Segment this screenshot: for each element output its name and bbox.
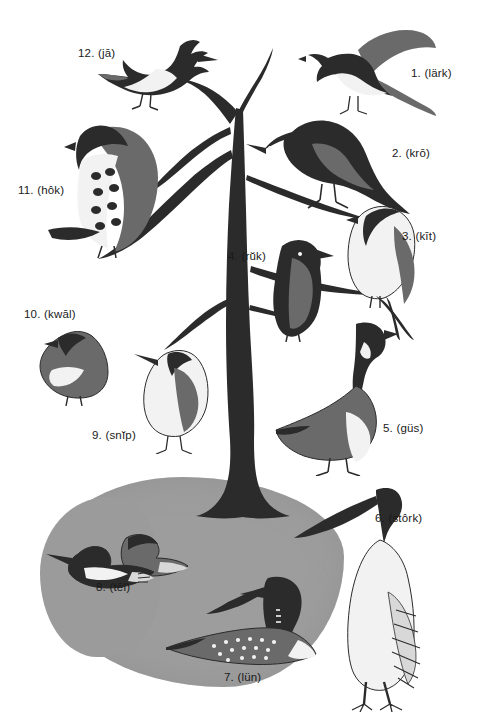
label-bird-5-goose: 5. (güs) [383,423,424,435]
label-bird-1-lark: 1. (lärk) [411,68,452,80]
bird-loon [148,570,338,670]
label-bird-7-loon: 7. (lün) [224,672,261,684]
bird-snipe [128,344,228,454]
label-bird-9-snipe: 9. (snĭp) [92,430,136,442]
bird-quail [28,326,118,406]
label-bird-10-quail: 10. (kwāl) [24,309,76,321]
label-bird-12-jay: 12. (jā) [78,48,115,60]
label-bird-11-hawk: 11. (hôk) [18,185,64,197]
bird-jay [96,36,226,116]
label-bird-6-stork: 6. (stôrk) [375,513,422,525]
label-bird-4-rook: 4. (rŭk) [228,251,266,263]
label-bird-8-teal: 8. (tēl) [96,582,130,594]
label-bird-3-kite: 3. (kīt) [402,231,436,243]
bird-goose [272,316,402,476]
bird-plate-illustration: 12. (jā) 1. (lärk) 2. (krō) 11. (hôk) 3.… [0,0,486,726]
label-bird-2-crow: 2. (krō) [392,148,430,160]
